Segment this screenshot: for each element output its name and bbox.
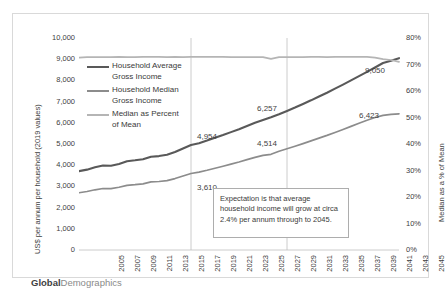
y-axis-left-tick-label: 9,000 [31,54,75,63]
y-axis-left-tick-label: 0 [31,245,75,254]
brand-footer: GlobalDemographics [31,277,122,288]
x-axis-tick-label: 2015 [197,255,206,289]
data-label: 6,423 [359,111,379,120]
legend-item[interactable]: Household MedianGross Income [87,85,220,106]
x-axis-tick-label: 2017 [213,255,222,289]
y-axis-left-tick-label: 2,000 [31,203,75,212]
y-axis-left-tick-label: 10,000 [31,33,75,42]
legend-item[interactable]: Median as Percentof Mean [87,109,220,130]
chart-frame: US$ per annum per household (2019 values… [12,13,429,278]
annotation-textbox: Expectation is that average household in… [213,188,349,238]
data-label: 9,050 [365,66,385,75]
x-axis-tick-label: 2033 [341,255,350,289]
y-axis-left-tick-label: 8,000 [31,75,75,84]
x-axis-tick-label: 2021 [245,255,254,289]
legend-item[interactable]: Household AverageGross Income [87,61,220,82]
data-label: 4,954 [197,132,217,141]
x-axis-tick-label: 2011 [165,255,174,289]
x-axis-tick-label: 2009 [149,255,158,289]
y-axis-left-tick-label: 6,000 [31,118,75,127]
legend-color-swatch [87,66,109,68]
x-axis-tick-label: 2023 [261,255,270,289]
x-axis-tick-label: 2041 [405,255,414,289]
x-axis-tick-label: 2031 [325,255,334,289]
y-axis-left-tick-label: 1,000 [31,224,75,233]
y-axis-left-tick-label: 5,000 [31,139,75,148]
y-axis-left-tick-label: 7,000 [31,97,75,106]
brand-bold: Global [31,277,61,288]
x-axis-tick-label: 2029 [309,255,318,289]
legend-label-line2: Gross Income [112,96,220,107]
x-axis-tick-label: 2035 [357,255,366,289]
x-axis-tick-label: 2039 [389,255,398,289]
legend-label-line2: of Mean [112,120,220,131]
x-axis-tick-label: 2037 [373,255,382,289]
x-axis-tick-label: 2013 [181,255,190,289]
legend-label: Median as Percentof Mean [112,109,220,130]
y-axis-left-tick-label: 4,000 [31,160,75,169]
x-axis-tick-label: 2025 [277,255,286,289]
legend-label-line2: Gross Income [112,72,220,83]
legend-label-line1: Household Average [112,61,220,72]
x-axis-tick-label: 2027 [293,255,302,289]
x-axis-tick-label: 2019 [229,255,238,289]
x-axis-tick-label: 2007 [133,255,142,289]
x-axis-tick-label: 2043 [421,255,430,289]
legend-color-swatch [87,90,109,92]
legend-label-line1: Household Median [112,85,220,96]
data-label: 6,257 [257,104,277,113]
brand-light: Demographics [61,277,122,288]
y-axis-left-tick-label: 3,000 [31,181,75,190]
legend-label: Household AverageGross Income [112,61,220,82]
legend-label: Household MedianGross Income [112,85,220,106]
legend-color-swatch [87,114,109,116]
legend-label-line1: Median as Percent [112,109,220,120]
data-label: 4,514 [257,139,277,148]
x-axis-tick-label: 2045 [437,255,446,289]
